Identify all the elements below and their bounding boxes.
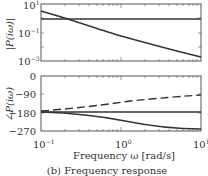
figure-caption: (b) Frequency response [47, 165, 167, 176]
phase-curve-lagging [41, 112, 201, 129]
phase-ylabel: ∠P(iω) [4, 87, 15, 121]
magnitude-panel-frame [41, 4, 201, 61]
phase-tick-0: 0 [30, 71, 36, 82]
x-axis-label: Frequency ω [rad/s] [73, 150, 175, 161]
x-tick-2: 100 [115, 138, 132, 150]
phase-tick-270: −270 [9, 126, 36, 137]
phase-tick-90: −90 [15, 89, 36, 100]
mag-tick-mid: 10−1 [18, 27, 40, 39]
x-tick-1: 10−1 [33, 138, 55, 150]
phase-panel-frame [41, 76, 201, 131]
mag-y-ticks [41, 18, 201, 47]
mag-tick-top: 101 [23, 0, 40, 11]
bode-plot: 101 10−1 10−3 |P(iω)| 0 −90 −180 −270 ∠P… [0, 0, 208, 176]
mag-ylabel: |P(iω)| [4, 18, 16, 51]
mag-curve-decaying [41, 11, 201, 57]
phase-curve-dashed [41, 95, 201, 111]
x-tick-3: 101 [193, 138, 208, 150]
mag-tick-bot: 10−3 [18, 55, 40, 67]
